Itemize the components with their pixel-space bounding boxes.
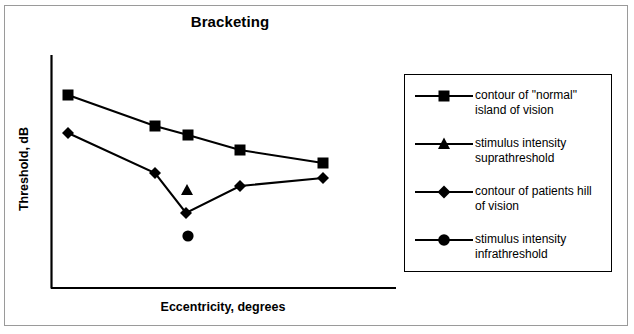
- figure-root: Bracketing Eccen: [0, 0, 634, 334]
- legend-sample-diamond: [413, 177, 475, 207]
- square-marker-icon: [439, 91, 450, 102]
- legend-label-line1: stimulus intensity: [475, 136, 566, 150]
- legend-item-patient-hill: contour of patients hill of vision: [405, 177, 611, 221]
- legend-label-suprathreshold: stimulus intensity suprathreshold: [475, 129, 611, 165]
- legend-label-line1: stimulus intensity: [475, 232, 566, 246]
- legend-label-patient-hill: contour of patients hill of vision: [475, 177, 611, 213]
- legend-item-infrathreshold: stimulus intensity infrathreshold: [405, 225, 611, 269]
- series-infrathreshold-marker: [182, 230, 193, 241]
- series-patient-hill-line: [68, 133, 323, 213]
- legend-label-line2: infrathreshold: [475, 247, 607, 262]
- legend-label-line2: of vision: [475, 199, 607, 214]
- legend: contour of "normal" island of vision sti…: [404, 74, 612, 272]
- diamond-marker-icon: [438, 186, 451, 199]
- legend-label-line2: suprathreshold: [475, 151, 607, 166]
- series-patient-hill-markers: [62, 127, 329, 219]
- x-axis-label: Eccentricity, degrees: [51, 300, 395, 314]
- legend-label-line2: island of vision: [475, 103, 607, 118]
- circle-marker-icon: [438, 234, 450, 246]
- legend-label-normal-island: contour of "normal" island of vision: [475, 81, 611, 117]
- legend-sample-circle: [413, 225, 475, 255]
- legend-sample-square: [413, 81, 475, 111]
- series-suprathreshold-marker: [181, 184, 193, 195]
- legend-item-suprathreshold: stimulus intensity suprathreshold: [405, 129, 611, 173]
- legend-label-line1: contour of "normal": [475, 88, 577, 102]
- series-normal-island-line: [68, 95, 323, 163]
- y-axis-label: Threshold, dB: [17, 99, 31, 239]
- legend-label-line1: contour of patients hill: [475, 184, 592, 198]
- legend-label-infrathreshold: stimulus intensity infrathreshold: [475, 225, 611, 261]
- legend-item-normal-island: contour of "normal" island of vision: [405, 81, 611, 125]
- legend-sample-triangle: [413, 129, 475, 159]
